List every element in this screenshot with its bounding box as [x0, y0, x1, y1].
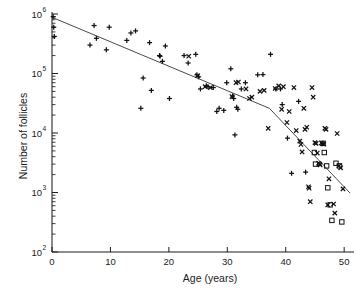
data-point-plus — [104, 47, 109, 52]
y-tick-label: 10 — [31, 128, 42, 139]
data-point-cross — [305, 125, 309, 129]
data-point-plus — [268, 52, 273, 57]
data-point-square — [340, 220, 344, 224]
data-point-cross — [335, 131, 339, 135]
data-point-plus — [182, 53, 187, 58]
data-point-cross — [266, 126, 270, 130]
data-point-plus — [193, 52, 198, 57]
y-tick-exponent: 2 — [43, 244, 47, 251]
data-point-cross — [277, 84, 281, 88]
data-point-cross — [300, 150, 304, 154]
data-point-plus — [147, 40, 152, 45]
data-point-plus — [124, 38, 129, 43]
x-tick-label: 30 — [222, 256, 233, 267]
data-point-plus — [228, 66, 233, 71]
x-tick-label: 0 — [49, 256, 54, 267]
data-point-plus — [141, 76, 146, 81]
data-point-plus — [128, 30, 133, 35]
data-point-cross — [285, 120, 289, 124]
tick-marks-group — [52, 14, 344, 252]
data-point-plus — [149, 88, 154, 93]
data-point-plus — [107, 25, 112, 30]
y-tick-label: 10 — [31, 9, 42, 20]
data-point-plus — [232, 132, 237, 137]
data-point-cross — [262, 88, 266, 92]
y-tick-exponent: 5 — [43, 65, 47, 72]
data-point-cross — [310, 85, 314, 89]
y-axis-label: Number of follicles — [17, 66, 29, 206]
data-point-cross — [279, 107, 283, 111]
data-point-plus — [158, 54, 163, 59]
follicle-decline-chart: 01020304050102103104105106 Age (years) N… — [0, 0, 362, 294]
data-point-plus — [260, 72, 265, 77]
data-point-cross — [294, 128, 298, 132]
trend-line-group — [52, 17, 350, 193]
data-point-plus — [138, 106, 143, 111]
y-tick-exponent: 3 — [43, 184, 47, 191]
data-point-cross — [341, 187, 345, 191]
data-point-plus — [52, 34, 57, 39]
data-point-cross — [292, 85, 296, 89]
data-point-plus — [255, 72, 260, 77]
data-point-cross — [333, 211, 337, 215]
x-axis-label: Age (years) — [150, 272, 270, 284]
data-point-cross — [281, 85, 285, 89]
data-point-cross — [287, 109, 291, 113]
data-points-group — [51, 14, 345, 224]
data-point-cross — [327, 177, 331, 181]
data-point-plus — [239, 86, 244, 91]
data-point-square — [326, 186, 330, 190]
y-tick-label: 10 — [31, 187, 42, 198]
data-point-plus — [133, 28, 138, 33]
axes-group — [52, 12, 354, 252]
data-point-plus — [289, 171, 294, 176]
x-tick-label: 10 — [105, 256, 116, 267]
data-point-plus — [87, 43, 92, 48]
data-point-plus — [167, 96, 172, 101]
data-point-plus — [92, 23, 97, 28]
data-point-plus — [221, 108, 226, 113]
data-point-plus — [198, 86, 203, 91]
data-point-cross — [302, 106, 306, 110]
data-point-cross — [308, 200, 312, 204]
trend-line-segment — [52, 17, 269, 108]
y-tick-label: 10 — [31, 247, 42, 258]
trend-line-segment — [269, 108, 350, 193]
data-point-cross — [311, 95, 315, 99]
x-tick-label: 20 — [164, 256, 175, 267]
data-point-plus — [285, 136, 290, 141]
data-point-plus — [243, 80, 248, 85]
tick-labels-group: 01020304050102103104105106 — [31, 6, 349, 268]
data-point-cross — [187, 54, 191, 58]
data-point-plus — [296, 99, 301, 104]
x-tick-label: 50 — [339, 256, 350, 267]
data-point-plus — [224, 80, 229, 85]
data-point-square — [330, 218, 334, 222]
y-tick-label: 10 — [31, 68, 42, 79]
y-tick-exponent: 6 — [43, 6, 47, 13]
data-point-plus — [186, 61, 191, 66]
data-point-cross — [244, 87, 248, 91]
x-tick-label: 40 — [280, 256, 291, 267]
data-point-cross — [258, 89, 262, 93]
data-point-plus — [163, 43, 168, 48]
data-point-square — [322, 150, 326, 154]
chart-canvas: 01020304050102103104105106 — [0, 0, 362, 294]
data-point-plus — [303, 170, 308, 175]
y-tick-exponent: 4 — [43, 125, 47, 132]
data-point-plus — [280, 102, 285, 107]
